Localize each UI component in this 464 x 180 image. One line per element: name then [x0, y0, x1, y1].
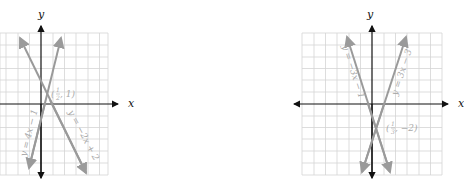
- intersection-label: ( 1 3 , −2): [386, 120, 418, 135]
- graph-right: x y y = −3x − 1 y = 3x − 3 ( 1 3 , −2): [270, 0, 464, 180]
- x-axis-label: x: [128, 97, 135, 110]
- graph-left-svg: x y y = 4x − 1 y = −2x + 2 ( 1 2 , 1): [0, 0, 150, 180]
- svg-text:(: (: [51, 89, 55, 99]
- intersection-label: ( 1 2 , 1): [51, 86, 75, 101]
- line-label-neg3x-minus-1: y = −3x − 1: [340, 43, 367, 100]
- graph-right-svg: x y y = −3x − 1 y = 3x − 3 ( 1 3 , −2): [270, 0, 464, 180]
- x-axis-label: x: [458, 97, 464, 110]
- y-axis-label: y: [366, 8, 374, 21]
- svg-text:, 1): , 1): [60, 89, 75, 99]
- line-label-3x-minus-3: y = 3x − 3: [389, 47, 414, 97]
- svg-text:(: (: [386, 123, 390, 133]
- svg-text:, −2): , −2): [395, 123, 418, 133]
- graph-left: x y y = 4x − 1 y = −2x + 2 ( 1 2 , 1): [0, 0, 150, 180]
- y-axis-label: y: [37, 8, 45, 21]
